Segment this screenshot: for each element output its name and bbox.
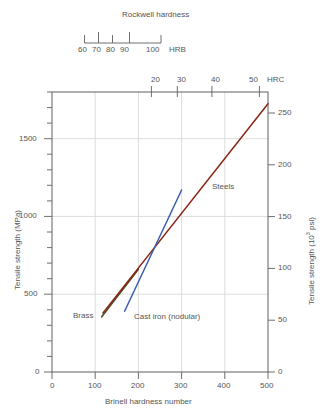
- x-label-0: 0: [50, 382, 54, 390]
- chart-figure: Rockwell hardness 60 70 80 90 100 HRB 20…: [0, 0, 331, 412]
- y-left-label-1500: 1500: [19, 135, 37, 143]
- y-right-label-200: 200: [278, 161, 291, 169]
- x-label-500: 500: [260, 382, 273, 390]
- x-label-300: 300: [174, 382, 187, 390]
- series-line-cast-iron: [125, 190, 182, 311]
- x-axis-ticks: [52, 372, 268, 379]
- annotation-steels: Steels: [212, 183, 234, 191]
- x-label-200: 200: [131, 382, 144, 390]
- y-axis-title-right: Tensile strength (103 psi): [305, 217, 316, 305]
- annotation-brass: Brass: [73, 312, 93, 320]
- y-left-label-0: 0: [35, 368, 39, 376]
- y-right-label-100: 100: [278, 264, 291, 272]
- plot-frame: [52, 92, 268, 372]
- grid-lines-horizontal: [52, 139, 268, 295]
- y-axis-right-ticks: [268, 113, 275, 372]
- y-right-label-250: 250: [278, 109, 291, 117]
- y-right-label-150: 150: [278, 213, 291, 221]
- x-axis-title: Brinell hardness number: [105, 398, 192, 406]
- x-label-100: 100: [88, 382, 101, 390]
- grid-lines-vertical: [95, 92, 225, 372]
- x-label-400: 400: [217, 382, 230, 390]
- plot-area: [0, 0, 331, 412]
- y-axis-left-ticks: [44, 92, 52, 372]
- annotation-cast-iron: Cast iron (nodular): [134, 313, 200, 321]
- y-right-label-0: 0: [278, 368, 282, 376]
- y-left-label-500: 500: [24, 290, 37, 298]
- y-axis-title-left: Tensile strength (MPa): [14, 210, 22, 290]
- y-right-label-50: 50: [278, 316, 287, 324]
- series-line-steels: [103, 104, 268, 313]
